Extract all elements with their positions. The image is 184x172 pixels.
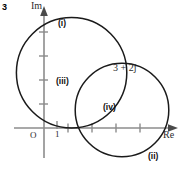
region-label-iii: (iii)	[56, 77, 69, 86]
figure-number: 3	[2, 3, 7, 12]
region-label-i: (i)	[58, 19, 66, 28]
argand-diagram-figure: 3 Im Re O 1 3 + 2j (i) (iii) (iv) (ii)	[0, 0, 184, 172]
circle-ii	[75, 63, 169, 157]
diagram-canvas	[0, 0, 184, 172]
unit-tick-label: 1	[55, 130, 60, 139]
real-axis-label: Re	[163, 130, 174, 140]
region-label-ii: (ii)	[148, 152, 158, 161]
region-label-iv: (iv)	[103, 103, 116, 112]
point-annotation-3-plus-2j: 3 + 2j	[113, 63, 136, 73]
imaginary-axis-label: Im	[31, 1, 42, 11]
imaginary-axis	[39, 6, 48, 158]
origin-label: O	[30, 131, 37, 140]
